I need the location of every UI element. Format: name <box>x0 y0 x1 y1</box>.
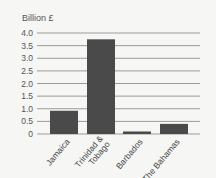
x-category-label: The Bahamas <box>140 137 182 178</box>
y-tick-label: 1.5 <box>21 91 33 101</box>
y-tick-label: 1.0 <box>21 104 33 114</box>
x-category-labels: JamaicaTrinidad &TobagoBarbadosThe Baham… <box>44 133 182 178</box>
x-category-label: Barbados <box>114 137 145 171</box>
x-category-label-line: The Bahamas <box>140 137 182 178</box>
y-tick-label: 3.5 <box>21 41 33 51</box>
bars <box>50 39 188 134</box>
y-tick-labels: 00.51.01.52.02.53.03.54.0 <box>21 28 33 139</box>
y-tick-label: 2.0 <box>21 79 33 89</box>
x-category-label-line: Jamaica <box>44 137 72 168</box>
y-tick-label: 0.5 <box>21 116 33 126</box>
y-tick-label: 3.0 <box>21 53 33 63</box>
bar <box>50 111 78 134</box>
x-category-label: Jamaica <box>44 137 72 168</box>
y-axis-title: Billion £ <box>22 13 54 23</box>
y-tick-label: 2.5 <box>21 66 33 76</box>
x-category-label-line: Barbados <box>114 137 145 171</box>
bar <box>87 39 115 134</box>
bar <box>160 124 188 134</box>
y-tick-label: 4.0 <box>21 28 33 38</box>
bar-chart: Billion £ 00.51.01.52.02.53.03.54.0 Jama… <box>0 0 216 178</box>
x-category-label: Trinidad &Tobago <box>73 133 112 175</box>
bar <box>123 131 151 134</box>
y-tick-label: 0 <box>28 129 33 139</box>
